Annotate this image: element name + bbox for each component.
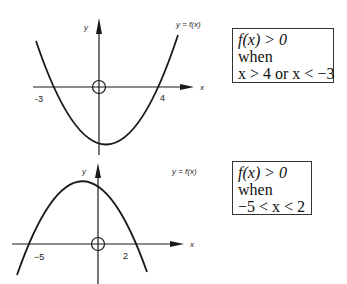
graph-2: y x y = f(x) −5 2 (12, 163, 197, 284)
condition-line-3: −5 < x < 2 (238, 198, 306, 215)
condition-box-2: f(x) > 0 when −5 < x < 2 (232, 161, 312, 215)
y-axis-label: y (83, 23, 89, 32)
y-axis-arrow-icon (96, 18, 102, 34)
root-label-left: −5 (34, 252, 44, 262)
root-label-left: -3 (35, 94, 43, 104)
condition-line-2: when (238, 181, 306, 198)
function-label: y = f(x) (171, 167, 197, 176)
graph-1: y x y = f(x) -3 4 (33, 18, 205, 155)
function-label: y = f(x) (175, 20, 201, 29)
x-axis-label: x (199, 83, 205, 92)
x-axis-arrow-icon (180, 84, 194, 90)
condition-box-1: f(x) > 0 when x > 4 or x < −3 (232, 28, 334, 83)
condition-line-2: when (238, 48, 328, 65)
condition-line-3: x > 4 or x < −3 (238, 65, 328, 82)
condition-line-1: f(x) > 0 (238, 164, 306, 181)
parabola-curve (36, 35, 178, 145)
root-label-right: 4 (160, 93, 165, 103)
y-axis-arrow-icon (95, 163, 101, 178)
y-axis-label: y (81, 167, 87, 176)
condition-line-1: f(x) > 0 (238, 31, 328, 48)
root-label-right: 2 (123, 251, 128, 261)
x-axis-label: x (189, 240, 195, 249)
x-axis-arrow-icon (170, 241, 184, 247)
